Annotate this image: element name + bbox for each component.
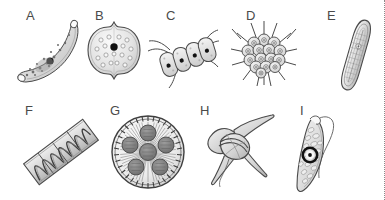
crescent-body [17, 19, 79, 82]
panel-label-b: B [95, 9, 104, 22]
specimen-i [280, 110, 352, 196]
panel-label-i: I [300, 104, 304, 117]
panel-label-e: E [327, 9, 336, 22]
specimen-g [108, 112, 188, 192]
panel-label-h: H [200, 104, 210, 117]
diatom-frustule [338, 18, 373, 92]
figure-panel: A B C D E F G H I [0, 0, 385, 200]
specimen-e [330, 16, 382, 94]
filament-body [24, 119, 99, 184]
colony-cell-cluster [242, 34, 286, 78]
panel-label-a: A [26, 9, 35, 22]
panel-label-f: F [25, 104, 33, 117]
specimen-c [146, 20, 220, 92]
panel-label-g: G [110, 104, 121, 117]
panel-label-c: C [166, 9, 176, 22]
colony-cells [157, 36, 218, 78]
specimen-f [18, 112, 104, 192]
specimen-b [84, 20, 144, 82]
central-body [110, 43, 117, 50]
dinoflagellate-body [208, 115, 274, 185]
specimen-h [196, 112, 280, 192]
specimen-d [228, 18, 300, 90]
specimen-a [14, 18, 89, 90]
panel-label-d: D [246, 9, 256, 22]
